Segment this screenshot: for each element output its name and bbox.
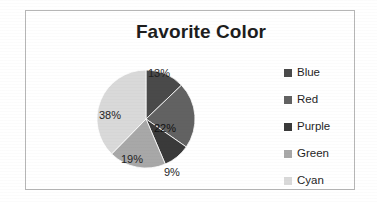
legend-swatch-purple <box>284 123 292 131</box>
legend-label-purple: Purple <box>297 121 330 133</box>
slice-label-blue: 13% <box>148 68 170 79</box>
legend-item-purple[interactable]: Purple <box>284 113 354 140</box>
plot-area: 13% 22% 9% 19% 38% Blue Red Purple Green <box>26 11 356 191</box>
chart-frame: Favorite Color 13% 22% 9% 19% 38% Blue R… <box>25 10 355 190</box>
legend-swatch-blue <box>284 69 292 77</box>
slice-label-red: 22% <box>154 123 176 134</box>
legend-label-blue: Blue <box>297 67 320 79</box>
legend-item-green[interactable]: Green <box>284 140 354 167</box>
legend-label-cyan: Cyan <box>297 175 324 187</box>
legend-swatch-green <box>284 150 292 158</box>
legend-label-green: Green <box>297 148 329 160</box>
legend-label-red: Red <box>297 94 318 106</box>
slice-label-green: 19% <box>121 154 143 165</box>
legend-item-cyan[interactable]: Cyan <box>284 167 354 194</box>
legend-swatch-red <box>284 96 292 104</box>
legend-swatch-cyan <box>284 177 292 185</box>
slice-label-purple: 9% <box>164 167 180 178</box>
legend-item-blue[interactable]: Blue <box>284 59 354 86</box>
legend-item-red[interactable]: Red <box>284 86 354 113</box>
chart-legend: Blue Red Purple Green Cyan <box>284 59 354 194</box>
slice-label-cyan: 38% <box>99 110 121 121</box>
